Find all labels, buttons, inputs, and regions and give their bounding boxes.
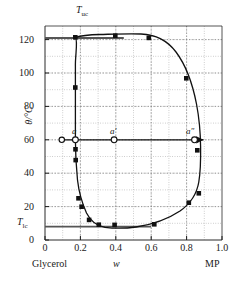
marker-a0 <box>59 137 64 142</box>
y-tick-label-80: 80 <box>8 100 34 111</box>
x-tick-label-0.4: 0.4 <box>96 242 136 253</box>
y-tick-label-40: 40 <box>8 167 34 178</box>
marker-a-double-prime <box>192 137 198 143</box>
x-tick-label-0.6: 0.6 <box>131 242 171 253</box>
marker-a-prime <box>111 137 117 143</box>
t-lc-subscript: lc <box>23 222 28 230</box>
t-uc-subscript: uc <box>82 10 89 18</box>
lower-critical-temperature-label: Tlc <box>17 216 28 230</box>
x-tick-label-0.8: 0.8 <box>167 242 207 253</box>
x-tick-label-0.2: 0.2 <box>60 242 100 253</box>
y-tick-label-100: 100 <box>8 67 34 78</box>
y-tick-label-60: 60 <box>8 134 34 145</box>
x-axis-ticks <box>45 236 222 240</box>
x-tick-label-1.0: 1.0 <box>202 242 242 253</box>
y-tick-label-120: 120 <box>8 34 34 45</box>
x-tick-label-0: 0 <box>25 242 65 253</box>
x-axis-title: w <box>113 258 120 269</box>
upper-critical-temperature-label: Tuc <box>76 4 88 18</box>
y-axis-ticks <box>45 40 49 240</box>
miscibility-loop-curve <box>75 34 200 228</box>
y-tick-label-20: 20 <box>8 201 34 212</box>
tie-point-label-a-prime: a′ <box>110 126 116 136</box>
axis-label-glycerol: Glycerol <box>32 258 67 269</box>
tie-point-label-a: a <box>72 126 77 136</box>
tie-point-label-a-double-prime: a″ <box>186 126 194 136</box>
marker-a <box>73 137 79 143</box>
phase-diagram-figure: θ/°C 0 20 40 60 80 100 120 0 0.2 0.4 0.6… <box>0 0 243 285</box>
axis-label-mp: MP <box>205 258 219 269</box>
